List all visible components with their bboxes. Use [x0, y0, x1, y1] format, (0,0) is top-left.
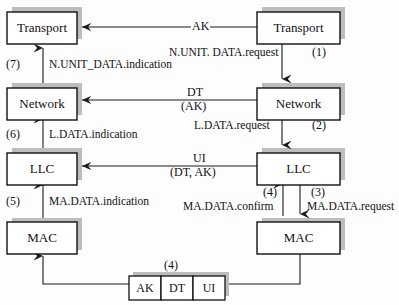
- network-peer-label-ak: (AK): [180, 100, 207, 113]
- left-network-label: Network: [7, 88, 77, 120]
- llc-peer-label-ui: UI: [192, 152, 207, 165]
- line-frame-to-left-mac: [43, 256, 133, 284]
- right-network-label: Network: [257, 88, 340, 120]
- protocol-sequence-diagram: Transport Network LLC MAC Transport Netw…: [0, 0, 399, 305]
- frame-step-4: (4): [163, 259, 179, 272]
- left-transport-label: Transport: [7, 12, 77, 44]
- llc-peer-label-dtak: (DT, AK): [169, 166, 217, 179]
- right-step-1: (1): [311, 46, 327, 59]
- left-step-7: (7): [5, 58, 21, 71]
- network-peer-label-dt: DT: [186, 86, 204, 99]
- right-step-3: (3): [310, 186, 326, 199]
- left-primitive-n-unit-data-indication: N.UNIT_DATA.indication: [48, 58, 173, 70]
- left-step-6: (6): [5, 128, 21, 141]
- right-step-4: (4): [262, 186, 278, 199]
- transport-peer-label: AK: [191, 20, 210, 33]
- right-transport-label: Transport: [257, 12, 340, 44]
- left-llc-label: LLC: [7, 153, 77, 185]
- right-step-2: (2): [311, 119, 327, 132]
- left-primitive-l-data-indication: L.DATA.indication: [48, 128, 139, 140]
- line-right-mac-to-frame: [229, 250, 300, 284]
- right-primitive-ma-data-request: MA.DATA.request: [306, 200, 395, 212]
- frame-field-dt: DT: [161, 276, 193, 300]
- frame-field-ak: AK: [129, 276, 161, 300]
- right-primitive-ma-data-confirm: MA.DATA.confirm: [182, 200, 274, 212]
- left-step-5: (5): [5, 195, 21, 208]
- right-primitive-l-data-request: L.DATA.request: [193, 119, 271, 131]
- frame-field-ui: UI: [193, 276, 225, 300]
- right-llc-label: LLC: [257, 153, 340, 185]
- left-primitive-ma-data-indication: MA.DATA.indication: [48, 195, 150, 207]
- right-mac-label: MAC: [257, 222, 340, 254]
- left-mac-label: MAC: [7, 222, 77, 254]
- right-primitive-n-unit-data-request: N.UNIT. DATA.request: [168, 46, 279, 58]
